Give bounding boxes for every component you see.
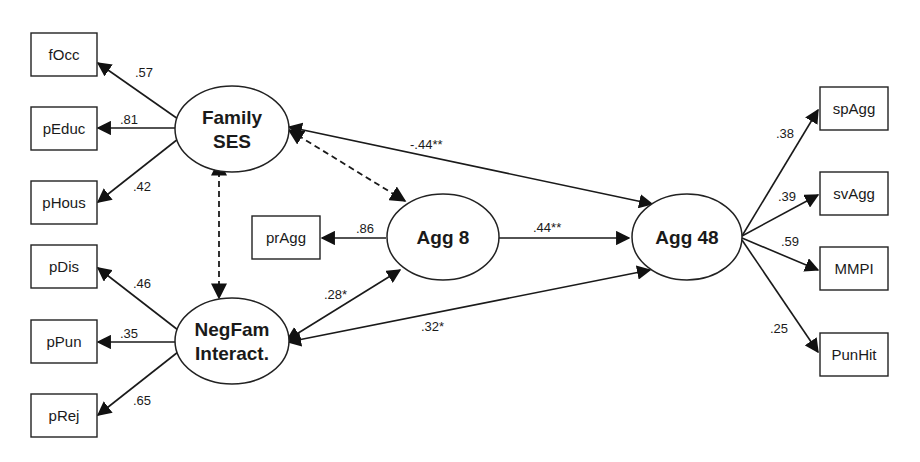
- covariance-famses-agg8: [289, 130, 405, 201]
- svg-text:pEduc: pEduc: [43, 120, 86, 137]
- sem-diagram: fOcc pEduc pHous pDis pPun pRej prAgg sp…: [0, 0, 920, 462]
- path-famses-agg48: [289, 127, 652, 204]
- observed-focc: fOcc: [31, 33, 97, 76]
- coef-famses-phous: .42: [133, 179, 151, 194]
- svg-text:Agg 8: Agg 8: [417, 227, 470, 248]
- observed-prej: pRej: [31, 394, 97, 437]
- svg-text:svAgg: svAgg: [833, 185, 875, 202]
- coef-famses-focc: .57: [135, 65, 153, 80]
- coef-negfam-pdis: .46: [133, 276, 151, 291]
- svg-text:NegFam: NegFam: [195, 319, 270, 340]
- svg-text:pPun: pPun: [46, 333, 81, 350]
- observed-mmpi: MMPI: [820, 247, 888, 290]
- coef-famses-peduc: .81: [120, 112, 138, 127]
- svg-text:fOcc: fOcc: [49, 46, 80, 63]
- observed-svagg: svAgg: [820, 172, 888, 215]
- latent-agg8: Agg 8: [387, 194, 499, 280]
- coef-negfam-agg48: .32*: [421, 319, 444, 334]
- svg-text:pDis: pDis: [49, 258, 79, 275]
- coef-negfam-prej: .65: [133, 393, 151, 408]
- observed-punhit: PunHit: [820, 333, 888, 376]
- svg-text:Interact.: Interact.: [195, 343, 269, 364]
- svg-text:Agg 48: Agg 48: [655, 227, 718, 248]
- latent-family-ses: Family SES: [175, 86, 289, 172]
- observed-spagg: spAgg: [820, 87, 888, 130]
- coef-agg48-punhit: .25: [770, 321, 788, 336]
- svg-text:spAgg: spAgg: [833, 100, 876, 117]
- coef-famses-agg48: -.44**: [410, 137, 443, 152]
- svg-text:MMPI: MMPI: [834, 260, 873, 277]
- svg-text:pRej: pRej: [49, 407, 80, 424]
- coef-agg48-svagg: .39: [778, 189, 796, 204]
- observed-peduc: pEduc: [31, 107, 97, 150]
- coef-agg48-mmpi: .59: [781, 234, 799, 249]
- svg-text:Family: Family: [202, 107, 263, 128]
- svg-text:PunHit: PunHit: [831, 346, 877, 363]
- coef-agg48-spagg: .38: [776, 126, 794, 141]
- coef-negfam-ppun: .35: [120, 326, 138, 341]
- loading-arrow-mmpi: [742, 238, 818, 270]
- latent-agg48: Agg 48: [632, 194, 742, 280]
- observed-pragg: prAgg: [252, 216, 320, 259]
- observed-phous: pHous: [31, 181, 97, 224]
- coef-negfam-agg8: .28*: [324, 287, 347, 302]
- coef-agg8-agg48: .44**: [533, 220, 561, 235]
- path-negfam-agg8: [287, 270, 400, 340]
- latent-negfam-interact: NegFam Interact.: [175, 298, 289, 384]
- observed-ppun: pPun: [31, 320, 97, 363]
- observed-pdis: pDis: [31, 245, 97, 288]
- svg-text:SES: SES: [213, 131, 251, 152]
- coef-agg8-pragg: .86: [356, 221, 374, 236]
- svg-text:prAgg: prAgg: [266, 229, 306, 246]
- svg-text:pHous: pHous: [42, 194, 85, 211]
